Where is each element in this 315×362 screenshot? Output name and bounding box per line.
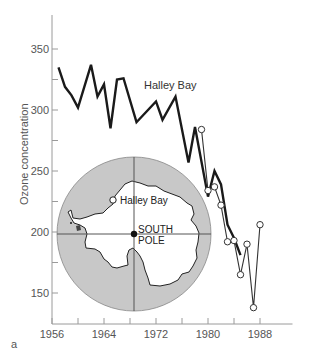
data-point-marker [250,304,256,310]
x-axis: 19561964197219801988 [40,318,293,340]
south-pole-marker [131,231,137,237]
data-point-marker [237,272,243,278]
antarctica-inset-map: Halley Bay SOUTH POLE [57,157,211,311]
data-point-marker [224,239,230,245]
x-tick-label: 1972 [144,328,168,340]
y-tick-label: 300 [31,104,49,116]
series-label-halley-bay: Halley Bay [144,79,197,91]
map-label-south: SOUTH [138,224,173,235]
x-tick-label: 1980 [196,328,220,340]
x-tick-label: 1964 [92,328,116,340]
halley-bay-marker [110,197,116,203]
series-open-circles-line [202,130,261,308]
data-point-marker [218,202,224,208]
data-point-marker [205,187,211,193]
map-label-pole: POLE [138,235,165,246]
y-tick-label: 350 [31,43,49,55]
data-point-marker [231,237,237,243]
x-tick-label: 1988 [248,328,272,340]
data-point-marker [211,184,217,190]
data-point-marker [257,221,263,227]
y-tick-label: 250 [31,165,49,177]
y-tick-label: 200 [31,226,49,238]
data-point-marker [244,241,250,247]
x-tick-label: 1956 [40,328,64,340]
y-axis-title: Ozone concentration [18,103,30,205]
map-label-halley-bay: Halley Bay [120,195,168,206]
y-tick-label: 150 [31,287,49,299]
ozone-chart: Halley Bay SOUTH POLE 150200250300350 19… [0,0,315,362]
y-axis: 150200250300350 [31,15,58,324]
data-point-marker [198,126,204,132]
panel-label: a [11,338,17,350]
